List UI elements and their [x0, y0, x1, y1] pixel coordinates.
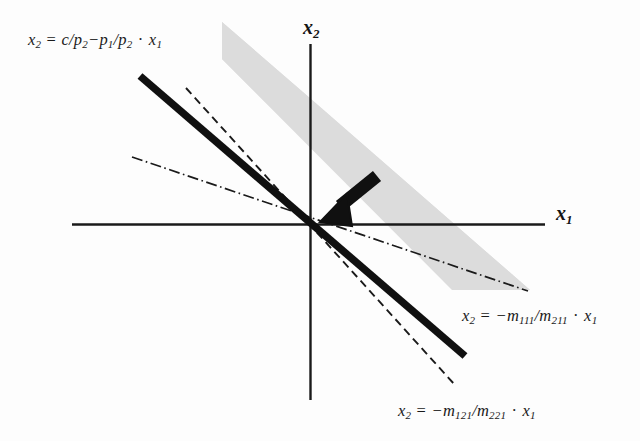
act2-lhs: x — [398, 401, 406, 420]
act1-lhs-sub: 2 — [470, 314, 476, 326]
act1-den-sub: 211 — [551, 314, 567, 326]
act2-var: x — [523, 401, 531, 420]
act1-var-sub: 1 — [592, 314, 598, 326]
act1-var: x — [584, 306, 592, 325]
budget-slash: /p — [114, 30, 127, 49]
act2-equals: = — [416, 401, 428, 420]
budget-term3-sub: 2 — [127, 38, 133, 50]
x-axis-label: x1 — [556, 202, 573, 228]
activity-ray-1-label: x2 = −m111/m211 · x1 — [462, 306, 597, 326]
act1-dot: · — [572, 306, 580, 325]
y-axis-label: x2 — [303, 16, 320, 42]
y-axis-label-sub: 2 — [313, 26, 320, 41]
act2-dot: · — [511, 401, 519, 420]
act2-num-sub: 121 — [455, 409, 472, 421]
act2-var-sub: 1 — [530, 409, 536, 421]
activity-ray-2-label: x2 = −m121/m221 · x1 — [398, 401, 536, 421]
feasible-cone — [222, 22, 530, 290]
diagram-svg — [0, 0, 640, 441]
act1-lhs: x — [462, 306, 470, 325]
act1-num-sub: 111 — [519, 314, 534, 326]
budget-term1: c/p — [61, 30, 82, 49]
act2-den: m — [477, 401, 489, 420]
diagram-canvas: x2 = c/p2−p1/p2 · x1 x2 = −m111/m211 · x… — [0, 0, 640, 441]
budget-equals: = — [46, 30, 58, 49]
act2-minus: − — [431, 401, 443, 420]
act1-num: m — [507, 306, 519, 325]
x-axis-label-text: x — [556, 202, 566, 224]
act1-minus: − — [495, 306, 507, 325]
act2-den-sub: 221 — [489, 409, 506, 421]
budget-line-label: x2 = c/p2−p1/p2 · x1 — [28, 30, 162, 50]
act1-equals: = — [480, 306, 492, 325]
budget-var-sub: 1 — [156, 38, 162, 50]
act1-den: m — [539, 306, 551, 325]
act2-lhs-sub: 2 — [406, 409, 412, 421]
budget-dot: · — [137, 30, 145, 49]
x-axis-label-sub: 1 — [566, 212, 573, 227]
y-axis-label-text: x — [303, 16, 313, 38]
budget-term2: p — [99, 30, 107, 49]
act2-num: m — [443, 401, 455, 420]
budget-lhs: x — [28, 30, 36, 49]
budget-lhs-sub: 2 — [36, 38, 42, 50]
budget-minus: − — [88, 30, 100, 49]
